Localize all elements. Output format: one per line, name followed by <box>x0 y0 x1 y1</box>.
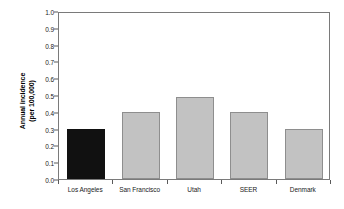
y-axis-tick-label: 0.2 <box>34 143 54 150</box>
y-axis-tick-label: 0.1 <box>34 160 54 167</box>
y-axis-title: Annual incidence (per 100,000) <box>12 55 42 147</box>
y-axis-tick-label: 0.6 <box>34 76 54 83</box>
y-axis-tick-label: 0.4 <box>34 109 54 116</box>
y-axis-tick-label: 0.9 <box>34 25 54 32</box>
x-axis-tick-mark <box>167 180 168 184</box>
x-axis-category-label: Utah <box>187 186 201 193</box>
x-axis-tick-mark <box>112 180 113 184</box>
y-axis-tick-label: 1.0 <box>34 9 54 16</box>
bar-los-angeles <box>67 129 105 179</box>
bar-denmark <box>285 129 323 179</box>
bar-chart-figure: Annual incidence (per 100,000) 1.00.90.8… <box>0 0 344 209</box>
y-axis-tick-label: 0.5 <box>34 93 54 100</box>
x-axis-category-label: Los Angeles <box>68 186 103 193</box>
x-axis-tick-mark <box>58 180 59 184</box>
x-axis-tick-mark <box>221 180 222 184</box>
x-axis-category-label: SEER <box>240 186 258 193</box>
bar-san-francisco <box>122 112 160 179</box>
x-axis-tick-mark <box>276 180 277 184</box>
bar-seer <box>230 112 268 179</box>
x-axis-tick-mark <box>330 180 331 184</box>
x-axis-category-label: Denmark <box>290 186 316 193</box>
y-axis-tick-label: 0.7 <box>34 59 54 66</box>
y-axis-tick-label: 0.3 <box>34 126 54 133</box>
x-axis-category-label: San Francisco <box>119 186 160 193</box>
bar-utah <box>176 97 214 179</box>
y-axis-title-line-1: Annual incidence <box>19 73 26 129</box>
plot-area <box>58 12 330 180</box>
y-axis-tick-label: 0.8 <box>34 42 54 49</box>
y-axis-tick-label: 0.0 <box>34 177 54 184</box>
